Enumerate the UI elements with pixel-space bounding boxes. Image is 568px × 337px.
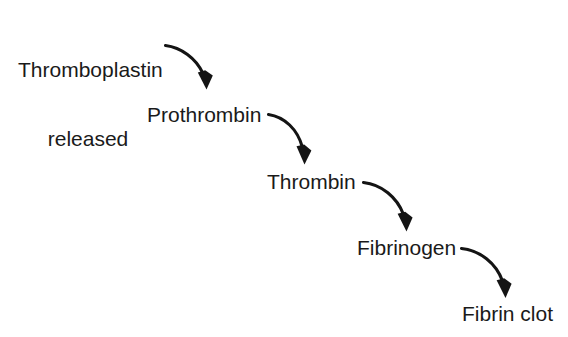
flow-arrow-1-head	[198, 70, 213, 89]
node-fibrin-clot: Fibrin clot	[462, 302, 553, 325]
flow-arrow-4-curve	[462, 249, 503, 282]
node-fibrinogen: Fibrinogen	[357, 236, 456, 259]
flow-arrow-prothrombin-to-thrombin	[269, 115, 312, 165]
flow-arrow-3-head	[398, 212, 413, 232]
flow-arrow-thrombin-to-fibrinogen	[364, 183, 413, 232]
node-thromboplastin-released-line1: Thromboplastin	[18, 58, 158, 81]
node-prothrombin: Prothrombin	[147, 103, 261, 126]
node-thromboplastin-released: Thromboplastin released	[18, 12, 158, 196]
flow-arrow-fibrinogen-to-fibrin-clot	[462, 249, 512, 299]
clotting-cascade-diagram: Thromboplastin released Prothrombin Thro…	[0, 0, 568, 337]
flow-arrow-2-head	[297, 145, 312, 165]
node-thromboplastin-released-line2: released	[18, 127, 158, 150]
flow-arrow-1-curve	[166, 46, 204, 74]
flow-arrow-3-curve	[364, 183, 404, 215]
node-thrombin: Thrombin	[267, 170, 356, 193]
flow-arrow-4-head	[497, 278, 512, 298]
flow-arrow-2-curve	[269, 115, 303, 148]
flow-arrow-thromboplastin-to-prothrombin	[166, 46, 213, 90]
